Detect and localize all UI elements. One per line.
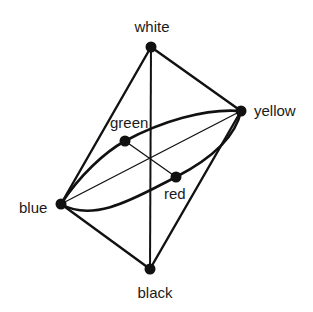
- edge-black-blue: [61, 204, 150, 269]
- label-blue: blue: [19, 199, 47, 216]
- label-red: red: [164, 185, 186, 202]
- color-double-cone-diagram: white yellow green red blue black: [0, 0, 313, 312]
- label-black: black: [137, 284, 173, 301]
- node-red: [171, 172, 182, 183]
- node-black: [145, 264, 156, 275]
- edge-white-yellow: [151, 47, 241, 111]
- label-green: green: [110, 114, 148, 131]
- label-white: white: [133, 18, 169, 35]
- node-blue: [56, 199, 67, 210]
- node-yellow: [236, 106, 247, 117]
- node-green: [120, 136, 131, 147]
- label-yellow: yellow: [254, 102, 296, 119]
- node-white: [146, 42, 157, 53]
